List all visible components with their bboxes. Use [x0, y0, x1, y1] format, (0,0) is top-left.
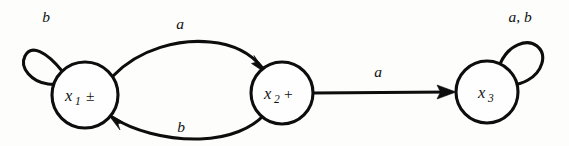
- transition-x2-to-x1: [108, 114, 265, 140]
- edge-path-x2-x3: [313, 92, 450, 93]
- state-marker-x1: ±: [86, 87, 95, 104]
- edge-label-x3-x3: a, b: [508, 8, 532, 25]
- edge-path-x1-x2: [113, 41, 263, 76]
- edge-label-x2-x1: b: [177, 118, 185, 135]
- state-label-x1: x: [64, 86, 73, 105]
- state-marker-x2: +: [284, 85, 293, 102]
- state-label-x3: x: [477, 83, 486, 102]
- transition-x1-to-x2: [113, 41, 267, 76]
- edge-label-x2-x3: a: [374, 63, 382, 80]
- state-label-x2: x: [263, 84, 272, 103]
- state-circle-x3[interactable]: [456, 61, 518, 123]
- automaton-svg: x 1 ± x 2 + x 3 b a b a a, b: [0, 0, 569, 146]
- edge-label-x1-x2: a: [176, 15, 184, 32]
- state-subscript-x2: 2: [274, 93, 280, 105]
- state-diagram-canvas: x 1 ± x 2 + x 3 b a b a a, b: [0, 0, 569, 146]
- edge-path-x2-x1: [112, 115, 264, 139]
- state-node-x2[interactable]: x 2 +: [251, 62, 313, 124]
- state-subscript-x1: 1: [75, 95, 81, 107]
- state-node-x3[interactable]: x 3: [456, 61, 518, 123]
- state-node-x1[interactable]: x 1 ±: [52, 62, 118, 128]
- state-circle-x2[interactable]: [251, 62, 313, 124]
- transition-x2-to-x3: [313, 85, 456, 99]
- edge-label-x1-x1: b: [42, 8, 50, 25]
- state-circle-x1[interactable]: [52, 62, 118, 128]
- state-subscript-x3: 3: [487, 92, 494, 104]
